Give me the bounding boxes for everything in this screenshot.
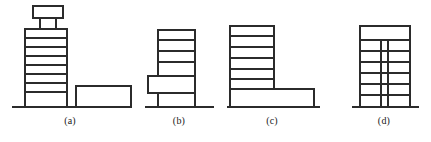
figure-label-d: (d) (378, 115, 390, 126)
podium-block-outline-c (230, 89, 314, 107)
tower-body-b (158, 30, 195, 107)
penthouse-box-outline-a (33, 6, 63, 18)
panel-d (352, 26, 419, 107)
projecting-block-outline-b (148, 76, 195, 93)
panel-a (12, 6, 131, 107)
tower-body-a (25, 29, 67, 107)
figure-label-b: (b) (173, 115, 185, 126)
figure-container: (a) (b) (c) (d) (0, 0, 431, 142)
low-rise-block-outline-a (76, 86, 131, 107)
panel-b (145, 30, 214, 107)
figure-label-a: (a) (64, 115, 76, 126)
figure-label-c: (c) (266, 115, 278, 126)
panel-c (227, 26, 320, 107)
